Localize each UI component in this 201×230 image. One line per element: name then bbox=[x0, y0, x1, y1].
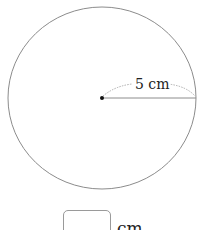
unit-label: cm bbox=[117, 219, 143, 230]
radius-label: 5 cm bbox=[134, 76, 170, 92]
circle-diagram bbox=[0, 0, 201, 230]
center-point bbox=[100, 96, 104, 100]
radius-brace-left bbox=[103, 84, 132, 96]
radius-brace-right bbox=[168, 84, 195, 96]
answer-input-box[interactable] bbox=[63, 210, 111, 230]
